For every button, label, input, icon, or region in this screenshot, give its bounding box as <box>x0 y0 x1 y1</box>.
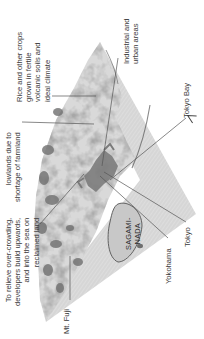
callout-yokohama: Yokohama <box>164 248 173 284</box>
callout-reclaimed-land: To relieve over-crowding, developers bui… <box>4 218 41 306</box>
callout-lowlands: lowlands due to shortage of farmland <box>4 132 22 202</box>
callout-rice-crops: Rice and other crops grown in fertile vo… <box>15 32 52 102</box>
callout-tokyo: Tokyo <box>183 227 192 247</box>
callout-industrial-urban: Industrial and urban areas <box>122 18 140 64</box>
tokyo-region-map: Rice and other crops grown in fertile vo… <box>0 0 204 339</box>
callout-mt-fuji: Mt. Fuji <box>62 309 71 334</box>
sea-label-sagami-nada: SAGAMI- NADA <box>125 217 142 250</box>
callout-tokyo-bay: Tokyo Bay <box>182 83 191 118</box>
